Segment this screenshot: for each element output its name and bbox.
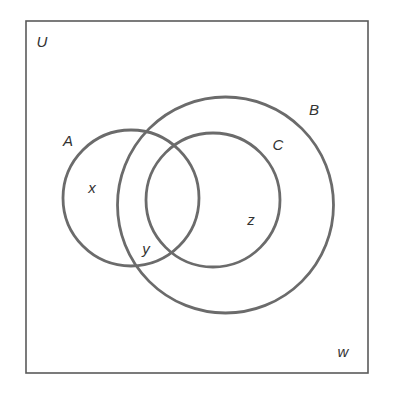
region-label-y: y	[141, 240, 151, 257]
venn-diagram: U A B C x y z w	[0, 0, 395, 394]
set-b-label: B	[309, 101, 319, 118]
set-b-circle	[118, 97, 334, 313]
region-label-x: x	[87, 179, 96, 196]
region-label-w: w	[338, 343, 350, 360]
region-label-z: z	[246, 211, 255, 228]
universe-label: U	[37, 33, 48, 50]
set-c-label: C	[273, 136, 284, 153]
set-c-circle	[146, 133, 280, 267]
set-a-label: A	[62, 132, 73, 149]
universe-rectangle	[26, 21, 368, 373]
